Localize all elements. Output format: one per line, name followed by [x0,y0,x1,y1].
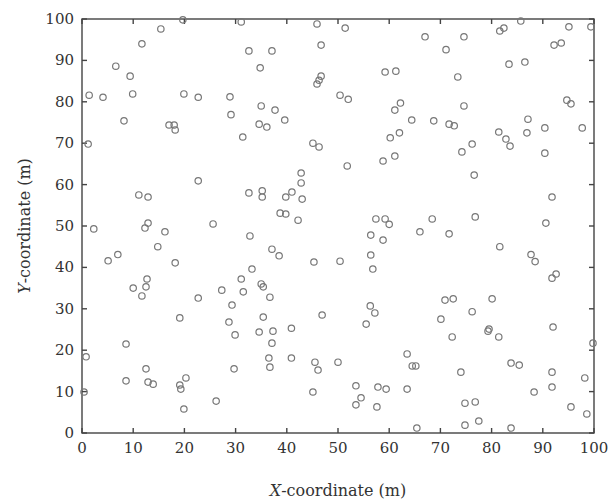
data-point [181,406,187,412]
data-point [404,351,410,357]
data-point [387,135,393,141]
x-tick-label: 40 [277,439,296,457]
data-point [462,400,468,406]
data-point [139,293,145,299]
data-point [298,170,304,176]
data-point [177,315,183,321]
data-point [129,91,135,97]
data-point [283,194,289,200]
data-point [531,389,537,395]
data-point [228,111,234,117]
data-point [497,244,503,250]
data-point [85,141,91,147]
data-point [438,316,444,322]
y-axis-label-text: -coordinate (m) [15,158,34,283]
data-point [172,260,178,266]
data-point [288,355,294,361]
data-point [310,140,316,146]
data-point [374,404,380,410]
x-tick-label: 20 [175,439,194,457]
data-point [449,334,455,340]
data-point [267,364,273,370]
data-point [256,121,262,127]
data-point [568,404,574,410]
data-point [462,422,468,428]
data-point [249,266,255,272]
data-point [289,189,295,195]
data-point [549,194,555,200]
data-point [442,297,448,303]
data-point [240,134,246,140]
y-tick-label: 60 [55,176,74,194]
data-point [337,92,343,98]
data-point [247,233,253,239]
data-point [549,384,555,390]
data-point [269,48,275,54]
x-tick-label: 50 [328,439,347,457]
x-tick-label: 90 [533,439,552,457]
x-tick-label: 60 [380,439,399,457]
x-tick-label: 80 [482,439,501,457]
data-point [422,34,428,40]
data-point [397,100,403,106]
data-point [446,231,452,237]
data-point [367,303,373,309]
data-point [558,40,564,46]
data-point [353,402,359,408]
data-point [489,296,495,302]
data-point [414,425,420,431]
data-point [404,386,410,392]
data-point [508,360,514,366]
data-point [158,26,164,32]
data-point [299,196,305,202]
data-point [522,59,528,65]
data-point [508,425,514,431]
y-tick-label: 20 [55,341,74,359]
data-point [86,92,92,98]
data-point [337,258,343,264]
data-point [272,107,278,113]
data-point [270,328,276,334]
x-axis-label-text: -coordinate (m) [281,481,406,500]
data-point [144,276,150,282]
data-point [450,296,456,302]
data-point [375,384,381,390]
y-tick-label: 70 [55,134,74,152]
data-point [295,217,301,223]
data-point [288,325,294,331]
x-axis-ticks: 0102030405060708090100 [77,19,608,457]
data-point [226,319,232,325]
data-point [584,411,590,417]
data-point [91,226,97,232]
data-point [123,378,129,384]
data-point [136,192,142,198]
data-point [503,136,509,142]
data-point [282,117,288,123]
data-point [266,355,272,361]
x-axis-label: X-coordinate (m) [268,481,407,500]
data-point [582,375,588,381]
data-point [524,130,530,136]
data-point [471,172,477,178]
data-point [417,229,423,235]
data-point [564,97,570,103]
data-point [121,118,127,124]
data-point [550,324,556,330]
data-point [383,386,389,392]
data-point [127,73,133,79]
data-point [386,221,392,227]
data-point [368,252,374,258]
data-point [543,220,549,226]
x-tick-label: 0 [77,439,87,457]
data-point [542,125,548,131]
data-point [579,125,585,131]
data-point [496,334,502,340]
data-point [258,103,264,109]
data-point [455,74,461,80]
data-point [238,276,244,282]
plot-area-frame [82,19,594,433]
data-point [269,340,275,346]
data-point [551,42,557,48]
data-point [590,340,596,346]
data-point [373,216,379,222]
